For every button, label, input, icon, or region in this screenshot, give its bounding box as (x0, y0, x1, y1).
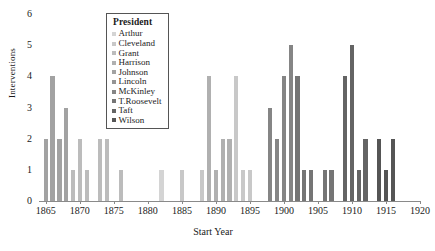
legend-swatch-icon (112, 61, 116, 65)
bar (275, 139, 279, 201)
x-tick-mark (80, 201, 81, 204)
bar (105, 139, 109, 201)
bar (85, 170, 89, 201)
bar (384, 170, 388, 201)
y-tick-label: 6 (14, 9, 32, 19)
legend-item[interactable]: Cleveland (112, 39, 162, 49)
bar (50, 76, 54, 201)
bar (227, 139, 231, 201)
y-tick-label: 3 (14, 103, 32, 113)
x-tick-label: 1920 (400, 205, 435, 216)
bar (214, 170, 218, 201)
bar (180, 170, 184, 201)
x-tick-mark (148, 201, 149, 204)
bar (119, 170, 123, 201)
plot-area (39, 14, 420, 201)
bar (248, 170, 252, 201)
y-tick-label: 2 (14, 134, 32, 144)
legend-item[interactable]: Wilson (112, 116, 162, 126)
legend-item-label: Harrison (119, 58, 151, 67)
bar (302, 170, 306, 201)
bar (78, 139, 82, 201)
x-tick-mark (386, 201, 387, 204)
legend-swatch-icon (112, 90, 116, 94)
legend-item-label: Taft (119, 106, 133, 115)
x-tick-mark (420, 201, 421, 204)
bar (98, 139, 102, 201)
x-tick-mark (114, 201, 115, 204)
bar (350, 45, 354, 201)
legend-item-label: McKinley (119, 87, 156, 96)
bar (309, 170, 313, 201)
bar (234, 76, 238, 201)
bar (343, 76, 347, 201)
bar (64, 108, 68, 202)
bar (363, 139, 367, 201)
legend-items: ArthurClevelandGrantHarrisonJohnsonLinco… (112, 29, 162, 125)
bar (207, 76, 211, 201)
legend-item[interactable]: McKinley (112, 87, 162, 97)
bar (329, 170, 333, 201)
bar (44, 139, 48, 201)
legend-swatch-icon (112, 109, 116, 113)
x-tick-mark (46, 201, 47, 204)
bar (221, 139, 225, 201)
x-axis-line (39, 201, 420, 202)
bar (295, 76, 299, 201)
bar (241, 170, 245, 201)
bar (159, 170, 163, 201)
bar (377, 139, 381, 201)
y-tick-label: 5 (14, 40, 32, 50)
y-tick-label: 1 (14, 165, 32, 175)
legend: President ArthurClevelandGrantHarrisonJo… (106, 13, 169, 129)
x-axis-label: Start Year (0, 226, 426, 237)
bar (289, 45, 293, 201)
bar (391, 139, 395, 201)
bar (268, 108, 272, 202)
bar (200, 170, 204, 201)
legend-title: President (113, 18, 162, 27)
legend-item-label: Wilson (119, 116, 145, 125)
bar (323, 170, 327, 201)
legend-swatch-icon (112, 51, 116, 55)
bar (282, 76, 286, 201)
legend-swatch-icon (112, 42, 116, 46)
legend-item-label: Cleveland (119, 39, 156, 48)
x-tick-mark (284, 201, 285, 204)
bar (71, 170, 75, 201)
legend-swatch-icon (112, 70, 116, 74)
legend-swatch-icon (112, 32, 116, 36)
legend-swatch-icon (112, 99, 116, 103)
x-tick-mark (216, 201, 217, 204)
x-tick-mark (352, 201, 353, 204)
legend-swatch-icon (112, 80, 116, 84)
bar (57, 139, 61, 201)
y-tick-label: 4 (14, 71, 32, 81)
bar (357, 170, 361, 201)
x-tick-mark (318, 201, 319, 204)
x-tick-mark (182, 201, 183, 204)
legend-swatch-icon (112, 118, 116, 122)
x-tick-mark (250, 201, 251, 204)
